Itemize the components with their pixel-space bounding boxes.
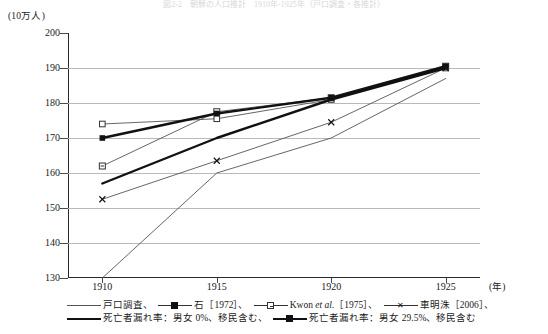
legend-entry-3: ✕車明洙［2006］、 <box>384 300 494 310</box>
y-tick-label: 190 <box>6 63 60 73</box>
series-layer <box>68 33 480 278</box>
series-3 <box>99 65 448 202</box>
y-tick-label: 160 <box>6 168 60 178</box>
cross-square-icon <box>267 302 274 309</box>
x-marker-icon: ✕ <box>397 302 404 309</box>
x-tick-label: 1920 <box>321 281 341 293</box>
legend-label: Kwon et al.［1975］、 <box>290 300 379 310</box>
y-tick-label: 170 <box>6 133 60 143</box>
legend-label: 死亡者漏れ率：男女 29.5%、移民含む <box>309 313 476 323</box>
legend-entry-0: 戸口調査、 <box>67 300 153 310</box>
series-0 <box>102 79 445 279</box>
x-axis-tick-labels: 1910191519201925 <box>68 281 480 295</box>
y-tick-mark <box>60 138 68 139</box>
y-axis-tick-labels: 200190180170160150140130 <box>0 33 60 278</box>
legend-entry-1: 石［1972］、 <box>158 300 248 310</box>
x-tick-label: 1910 <box>92 281 112 293</box>
filled-square-icon <box>171 302 178 309</box>
filled-square-icon <box>286 315 293 322</box>
legend-swatch-icon <box>158 301 192 310</box>
y-tick-mark <box>60 33 68 34</box>
series-5 <box>100 63 449 140</box>
x-axis-unit-label: (年) <box>489 281 505 293</box>
legend-entries: 戸口調査、 石［1972］、 Kwon et al.［1975］、 ✕車明洙［2… <box>39 299 509 325</box>
y-tick-mark <box>60 243 68 244</box>
y-tick-mark <box>60 103 68 104</box>
legend-label: 死亡者漏れ率：男女 0%、移民含む、 <box>103 313 268 323</box>
y-tick-mark <box>60 208 68 209</box>
legend-entry-4: 死亡者漏れ率：男女 0%、移民含む、 <box>67 313 268 323</box>
y-tick-label: 200 <box>6 28 60 38</box>
legend-swatch-icon: ✕ <box>384 301 418 310</box>
legend-entry-2: Kwon et al.［1975］、 <box>254 300 379 310</box>
y-tick-mark <box>60 173 68 174</box>
y-tick-label: 150 <box>6 203 60 213</box>
legend-label-italic: et al. <box>315 300 334 310</box>
y-tick-mark <box>60 278 68 279</box>
chart-figure: 図2-2 朝鮮の人口推計 1910年-1925年（戸口調査・各推計） (10万人… <box>0 0 548 334</box>
legend-swatch-icon <box>254 301 288 310</box>
y-axis-unit-label: (10万人) <box>8 11 45 22</box>
legend-label: 石［1972］、 <box>194 300 248 310</box>
plot-area <box>68 33 480 278</box>
legend-label: 車明洙［2006］、 <box>420 300 494 310</box>
x-tick-label: 1915 <box>207 281 227 293</box>
y-tick-mark <box>60 68 68 69</box>
x-tick-label: 1925 <box>436 281 456 293</box>
legend-label: 戸口調査、 <box>103 300 153 310</box>
legend-swatch-icon <box>67 314 101 323</box>
legend-swatch-icon <box>67 301 101 310</box>
legend-entry-5: 死亡者漏れ率：男女 29.5%、移民含む <box>273 313 476 323</box>
legend: 戸口調査、 石［1972］、 Kwon et al.［1975］、 ✕車明洙［2… <box>0 299 548 325</box>
y-tick-label: 180 <box>6 98 60 108</box>
y-tick-label: 130 <box>6 273 60 283</box>
figure-title: 図2-2 朝鮮の人口推計 1910年-1925年（戸口調査・各推計） <box>0 0 548 9</box>
y-tick-label: 140 <box>6 238 60 248</box>
legend-swatch-icon <box>273 314 307 323</box>
